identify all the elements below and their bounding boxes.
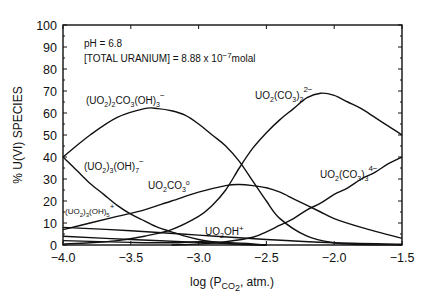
label-uo2-3-oh7: (UO2)3(OH)7− bbox=[84, 157, 144, 174]
chart: 0102030405060708090100 −4.0−3.5−3.0−2.5−… bbox=[0, 0, 429, 304]
x-tick-label: −1.5 bbox=[390, 251, 415, 265]
total-uranium-annotation: [TOTAL URANIUM] = 8.88 x 10−7molal bbox=[84, 51, 256, 64]
x-title-sub: CO bbox=[221, 281, 235, 291]
label-uo2-3-oh5: (UO2)3(OH)5+ bbox=[65, 202, 115, 218]
y-tick-label: 20 bbox=[43, 195, 57, 209]
y-tick-label: 70 bbox=[43, 85, 57, 99]
x-tick-label: −3.5 bbox=[118, 251, 143, 265]
label-uo2-co3-3: UO2(CO3)34− bbox=[320, 164, 378, 182]
y-tick-label: 60 bbox=[43, 107, 57, 121]
x-tick-label: −4.0 bbox=[51, 251, 76, 265]
y-tick-label: 50 bbox=[43, 129, 57, 143]
y-tick-label: 100 bbox=[36, 19, 57, 33]
tu-unit: molal bbox=[232, 53, 256, 64]
label-uo2oh: UO2OH+ bbox=[205, 224, 244, 239]
y-tick-label: 10 bbox=[43, 217, 57, 231]
label-uo2-2-co3-oh3: (UO2)2CO3(OH)3− bbox=[86, 91, 165, 108]
y-tick-label: 80 bbox=[43, 63, 57, 77]
x-tick-label: −2.0 bbox=[322, 251, 347, 265]
x-tick-label: −3.0 bbox=[186, 251, 211, 265]
label-uo2co3: UO2CO3o bbox=[148, 179, 190, 193]
x-tick-label: −2.5 bbox=[254, 251, 279, 265]
x-axis-title: log (PCO2, atm.) bbox=[190, 275, 274, 293]
y-axis-title: % U(VI) SPECIES bbox=[11, 86, 25, 183]
x-title-post: , atm.) bbox=[240, 275, 274, 289]
ph-annotation: pH = 6.8 bbox=[84, 38, 123, 49]
x-title-pre: log (P bbox=[190, 275, 221, 289]
tu-prefix: [TOTAL URANIUM] = 8.88 x 10 bbox=[84, 53, 223, 64]
y-tick-label: 40 bbox=[43, 151, 57, 165]
y-tick-label: 90 bbox=[43, 41, 57, 55]
y-tick-label: 30 bbox=[43, 173, 57, 187]
